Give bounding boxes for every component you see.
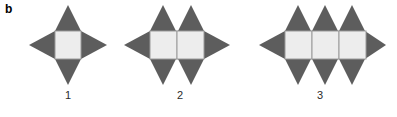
panel-label-b: b — [5, 2, 12, 16]
six-pointed-star-chain-shape — [120, 4, 240, 88]
figure-item-1: 1 — [16, 0, 120, 117]
shape-2-caption: 2 — [120, 88, 240, 102]
shape-3-graphic — [250, 4, 390, 88]
four-pointed-star-shape — [16, 4, 120, 88]
figure-item-2: 2 — [120, 0, 240, 117]
eight-pointed-star-chain-shape — [250, 4, 390, 88]
shape-3-caption: 3 — [250, 88, 390, 102]
shape-2-graphic — [120, 4, 240, 88]
figure-item-3: 3 — [250, 0, 390, 117]
shape-1-graphic — [16, 4, 120, 88]
shape-1-caption: 1 — [16, 88, 120, 102]
